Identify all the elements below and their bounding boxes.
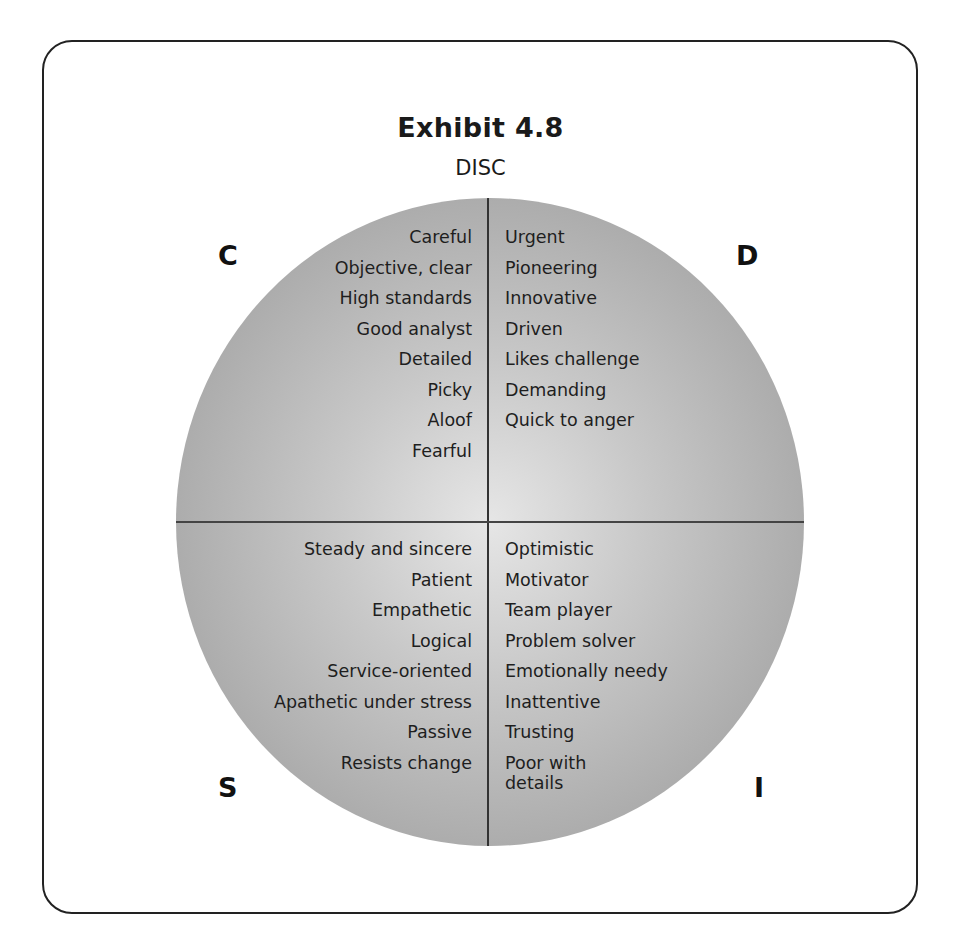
trait-item: Inattentive: [505, 687, 668, 718]
trait-item: Resists change: [274, 748, 472, 779]
trait-item: Team player: [505, 595, 668, 626]
quadrant-letter-s: S: [218, 772, 237, 803]
trait-item: Aloof: [335, 405, 472, 436]
quadrant-s-traits: Steady and sincere Patient Empathetic Lo…: [274, 534, 472, 778]
trait-item: Quick to anger: [505, 405, 639, 436]
quadrant-letter-d: D: [736, 240, 758, 271]
trait-item: Detailed: [335, 344, 472, 375]
exhibit-title: Exhibit 4.8: [0, 112, 961, 143]
trait-item: Emotionally needy: [505, 656, 668, 687]
trait-item: Objective, clear: [335, 253, 472, 284]
trait-item: Picky: [335, 375, 472, 406]
diagram-subtitle: DISC: [0, 156, 961, 180]
trait-item: Trusting: [505, 717, 668, 748]
disc-circle: Careful Objective, clear High standards …: [176, 198, 804, 846]
trait-item: Logical: [274, 626, 472, 657]
trait-item: High standards: [335, 283, 472, 314]
trait-item: Careful: [335, 222, 472, 253]
trait-item: Empathetic: [274, 595, 472, 626]
trait-item: Poor with details: [505, 748, 615, 793]
trait-item: Innovative: [505, 283, 639, 314]
trait-item: Motivator: [505, 565, 668, 596]
trait-item: Optimistic: [505, 534, 668, 565]
quadrant-letter-c: C: [218, 240, 238, 271]
trait-item: Steady and sincere: [274, 534, 472, 565]
trait-item: Demanding: [505, 375, 639, 406]
trait-item: Likes challenge: [505, 344, 639, 375]
quadrant-letter-i: I: [754, 772, 764, 803]
trait-item: Good analyst: [335, 314, 472, 345]
quadrant-i-traits: Optimistic Motivator Team player Problem…: [505, 534, 668, 793]
horizontal-divider: [176, 521, 804, 523]
trait-item: Driven: [505, 314, 639, 345]
trait-item: Fearful: [335, 436, 472, 467]
trait-item: Patient: [274, 565, 472, 596]
trait-item: Urgent: [505, 222, 639, 253]
quadrant-c-traits: Careful Objective, clear High standards …: [335, 222, 472, 466]
trait-item: Passive: [274, 717, 472, 748]
quadrant-d-traits: Urgent Pioneering Innovative Driven Like…: [505, 222, 639, 436]
trait-item: Problem solver: [505, 626, 668, 657]
trait-item: Apathetic under stress: [274, 687, 472, 718]
trait-item: Service-oriented: [274, 656, 472, 687]
trait-item: Pioneering: [505, 253, 639, 284]
